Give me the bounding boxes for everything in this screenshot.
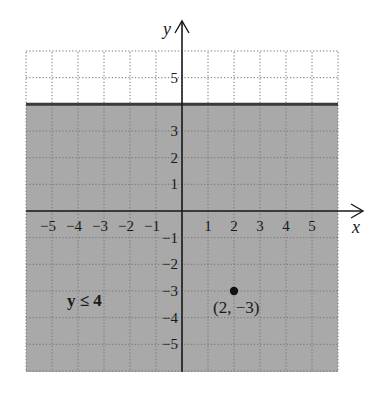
inequality-label: y ≤ 4 — [67, 291, 102, 310]
y-tick-label: −2 — [162, 256, 178, 272]
y-tick-label: −3 — [162, 283, 178, 299]
x-tick-label: −3 — [92, 218, 108, 234]
x-tick-label: 1 — [204, 218, 212, 234]
x-tick-label: 5 — [308, 218, 316, 234]
x-tick-label: 2 — [230, 218, 238, 234]
x-tick-label: −1 — [144, 218, 160, 234]
point-label: (2, −3) — [213, 298, 259, 317]
x-tick-label: 4 — [282, 218, 290, 234]
y-tick-label: 1 — [171, 176, 179, 192]
y-tick-label: −4 — [162, 310, 178, 326]
x-tick-label: −4 — [66, 218, 82, 234]
x-tick-label: −2 — [118, 218, 134, 234]
x-axis-label: x — [351, 217, 360, 237]
y-tick-label: 3 — [171, 123, 179, 139]
inequality-graph: −5−4−3−2−112345−5−4−3−2−11235 (2, −3) x … — [0, 0, 391, 393]
y-tick-label: −5 — [162, 336, 178, 352]
x-tick-label: 3 — [256, 218, 264, 234]
point-marker — [230, 287, 238, 295]
y-axis-label: y — [161, 19, 171, 39]
y-tick-label: 5 — [171, 70, 179, 86]
y-tick-label: −1 — [162, 230, 178, 246]
x-tick-label: −5 — [40, 218, 56, 234]
y-tick-label: 2 — [171, 150, 179, 166]
